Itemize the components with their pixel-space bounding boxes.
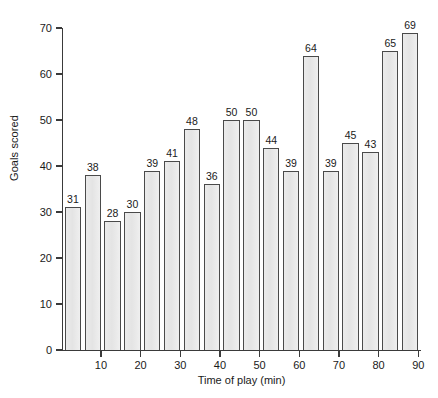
bar-value-label: 39 bbox=[276, 157, 306, 169]
bar-value-label: 48 bbox=[177, 115, 207, 127]
x-tick-mark bbox=[418, 351, 419, 357]
y-tick-label: 70 bbox=[16, 22, 52, 34]
bar bbox=[144, 171, 160, 350]
bar-value-label: 31 bbox=[58, 193, 88, 205]
y-axis-title: Goals scored bbox=[8, 88, 20, 208]
y-tick-mark bbox=[56, 211, 62, 212]
x-tick-label: 30 bbox=[160, 359, 200, 371]
y-tick-label: 20 bbox=[16, 252, 52, 264]
bar bbox=[382, 51, 398, 350]
bar bbox=[342, 143, 358, 350]
bar-value-label: 43 bbox=[355, 138, 385, 150]
x-tick-mark bbox=[180, 351, 181, 357]
x-tick-label: 70 bbox=[319, 359, 359, 371]
bar-value-label: 36 bbox=[197, 170, 227, 182]
y-tick-mark bbox=[56, 257, 62, 258]
bar bbox=[243, 120, 259, 350]
y-axis-line bbox=[62, 28, 63, 351]
x-axis-line bbox=[62, 350, 421, 351]
bar bbox=[85, 175, 101, 350]
bar bbox=[263, 148, 279, 350]
x-tick-mark bbox=[299, 351, 300, 357]
bar-value-label: 44 bbox=[256, 134, 286, 146]
bar bbox=[164, 161, 180, 350]
bar-value-label: 38 bbox=[78, 161, 108, 173]
bar bbox=[362, 152, 378, 350]
x-tick-label: 40 bbox=[200, 359, 240, 371]
x-tick-mark bbox=[338, 351, 339, 357]
x-tick-mark bbox=[140, 351, 141, 357]
y-tick-mark bbox=[56, 27, 62, 28]
bar bbox=[303, 56, 319, 350]
y-tick-mark bbox=[56, 165, 62, 166]
x-tick-label: 60 bbox=[279, 359, 319, 371]
y-tick-mark bbox=[56, 119, 62, 120]
bar bbox=[283, 171, 299, 350]
y-tick-label: 50 bbox=[16, 114, 52, 126]
bar bbox=[65, 207, 81, 350]
bar-value-label: 65 bbox=[375, 37, 405, 49]
x-tick-mark bbox=[259, 351, 260, 357]
bar-value-label: 41 bbox=[157, 147, 187, 159]
bar bbox=[184, 129, 200, 350]
x-tick-label: 10 bbox=[81, 359, 121, 371]
bar-value-label: 39 bbox=[316, 157, 346, 169]
y-tick-label: 10 bbox=[16, 298, 52, 310]
bar bbox=[204, 184, 220, 350]
bar bbox=[223, 120, 239, 350]
x-tick-label: 50 bbox=[240, 359, 280, 371]
y-tick-label: 60 bbox=[16, 68, 52, 80]
y-tick-mark bbox=[56, 303, 62, 304]
bar-value-label: 64 bbox=[296, 42, 326, 54]
bar-value-label: 69 bbox=[395, 19, 425, 31]
x-tick-mark bbox=[100, 351, 101, 357]
bar-value-label: 30 bbox=[117, 198, 147, 210]
y-tick-label: 40 bbox=[16, 160, 52, 172]
x-axis-title: Time of play (min) bbox=[63, 374, 420, 386]
x-tick-label: 20 bbox=[121, 359, 161, 371]
y-tick-label: 30 bbox=[16, 206, 52, 218]
x-tick-mark bbox=[378, 351, 379, 357]
x-tick-label: 90 bbox=[398, 359, 438, 371]
y-tick-mark bbox=[56, 73, 62, 74]
bar bbox=[104, 221, 120, 350]
bar-chart: Goals scored 010203040506070 10203040506… bbox=[0, 0, 438, 398]
y-tick-label: 0 bbox=[16, 344, 52, 356]
bar-value-label: 50 bbox=[236, 106, 266, 118]
bar bbox=[124, 212, 140, 350]
bar bbox=[402, 33, 418, 350]
x-tick-label: 80 bbox=[359, 359, 399, 371]
y-tick-mark bbox=[56, 349, 62, 350]
bar bbox=[323, 171, 339, 350]
x-tick-mark bbox=[219, 351, 220, 357]
